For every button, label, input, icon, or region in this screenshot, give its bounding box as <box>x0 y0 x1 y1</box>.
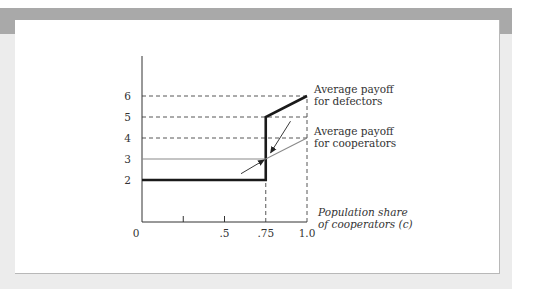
x-axis-title-line: of cooperators (c) <box>318 218 413 230</box>
x-tick-label: .75 <box>257 227 274 239</box>
y-tick-label: 3 <box>124 153 131 165</box>
series-label: for defectors <box>314 95 382 107</box>
y-tick-label: 5 <box>124 111 131 123</box>
tick-labels: 234560.5.751.0 <box>124 90 315 239</box>
x-axis-title: Population shareof cooperators (c) <box>317 206 413 230</box>
y-tick-label: 4 <box>124 132 131 144</box>
x-tick-label: .5 <box>219 227 229 239</box>
y-tick-label: 2 <box>124 174 131 186</box>
chart: 234560.5.751.0 Average payofffor defecto… <box>0 0 540 295</box>
axes <box>142 56 307 222</box>
x-axis-title-line: Population share <box>317 206 408 218</box>
series-labels: Average payofffor defectorsAverage payof… <box>313 83 396 149</box>
series-label: Average payoff <box>313 83 395 95</box>
annotation-arrow <box>241 160 264 174</box>
series-label: for cooperators <box>314 137 396 149</box>
cooperators-payoff-line <box>142 138 307 159</box>
series-label: Average payoff <box>313 125 395 137</box>
y-tick-label: 6 <box>124 90 131 102</box>
x-tick-label: 1.0 <box>299 227 316 239</box>
x-tick-label: 0 <box>133 227 140 239</box>
